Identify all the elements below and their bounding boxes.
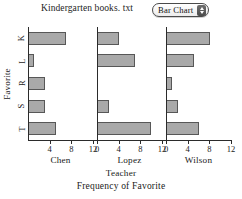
x-tick-label: 8 [69,144,73,154]
y-axis-label-t: T [16,117,27,140]
tick-label-panel: 04812 [97,144,162,154]
bar-rows [29,27,93,140]
tick-label-panel: 04812 [166,144,231,154]
bar-lopez-t[interactable] [98,122,151,135]
y-axis-label-text: K [17,35,27,41]
bar-row [29,117,93,140]
panel-label-wilson: Wilson [166,155,231,167]
bar-chen-l[interactable] [29,54,34,67]
bar-rows [167,27,231,140]
bar-lopez-k[interactable] [98,32,119,45]
x-tick-label: 4 [117,144,121,154]
y-axis-label-r: R [16,72,27,95]
tick-label-panel: 4812 [28,144,93,154]
y-axis-title-text: Favorite [2,68,12,100]
y-axis-label-text: T [17,126,27,131]
panel-group [28,27,231,140]
panel-labels: ChenLopezWilson [28,155,231,167]
panel-lopez [97,27,162,140]
y-axis-label-k: K [16,27,27,50]
y-axis-label-s: S [16,95,27,118]
bar-chen-r[interactable] [29,77,45,90]
x-axis-title: Teacher [0,168,242,178]
up-down-stepper-icon[interactable] [197,5,206,16]
bar-wilson-r[interactable] [167,77,172,90]
bar-rows [98,27,162,140]
panel-wilson [166,27,231,140]
chart-type-dropdown[interactable]: Bar Chart [152,3,209,17]
page-title: Kindergarten books. txt [24,3,150,13]
y-axis-label-l: L [16,50,27,73]
y-axis-label-text: S [17,104,27,109]
bar-row [167,72,231,95]
x-tick-label: 0 [164,144,168,154]
x-tick-label: 8 [138,144,142,154]
bar-wilson-k[interactable] [167,32,210,45]
y-axis-tick-labels: KLRST [16,27,27,140]
bar-row [98,72,162,95]
bar-chen-s[interactable] [29,100,45,113]
bar-row [29,72,93,95]
panel-label-lopez: Lopez [97,155,162,167]
bar-row [167,95,231,118]
bar-row [29,50,93,73]
y-axis-title: Favorite [0,27,13,140]
bar-wilson-t[interactable] [167,122,199,135]
bar-wilson-l[interactable] [167,54,194,67]
bar-row [98,50,162,73]
x-axis-tick-labels: 48120481204812 [28,144,231,154]
bar-row [98,95,162,118]
bar-row [98,117,162,140]
bar-row [29,27,93,50]
x-tick-label: 8 [207,144,211,154]
bar-chen-k[interactable] [29,32,66,45]
bar-chen-t[interactable] [29,122,56,135]
y-axis-label-text: R [17,81,27,87]
x-tick-label: 4 [186,144,190,154]
bar-lopez-s[interactable] [98,100,109,113]
panel-chen [28,27,93,140]
y-axis-label-text: L [17,58,27,63]
x-tick-label: 4 [48,144,52,154]
plot-area [28,27,231,140]
bar-row [167,117,231,140]
bar-wilson-s[interactable] [167,100,178,113]
chart-type-value: Bar Chart [158,5,197,15]
x-tick-label: 12 [227,144,236,154]
chart-caption: Frequency of Favorite [0,181,242,191]
bar-row [98,27,162,50]
bar-row [167,50,231,73]
bar-lopez-l[interactable] [98,54,135,67]
panel-label-chen: Chen [28,155,93,167]
x-tick-label: 0 [95,144,99,154]
bar-row [29,95,93,118]
bar-chart-app: Kindergarten books. txt Bar Chart Favori… [0,0,242,199]
bar-row [167,27,231,50]
